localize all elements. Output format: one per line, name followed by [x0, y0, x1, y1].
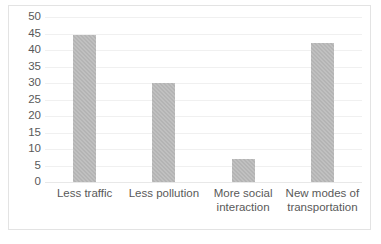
x-tick-label-line: Less traffic [57, 187, 112, 199]
x-axis: Less traffic Less pollution More social … [45, 186, 362, 215]
x-tick-label-line: interaction [205, 200, 282, 214]
x-tick-label-line: transportation [284, 200, 361, 214]
y-tick-label: 50 [11, 11, 41, 23]
y-tick-label: 20 [11, 110, 41, 122]
x-tick-label-line: New modes of [286, 187, 360, 199]
y-tick-label: 0 [11, 176, 41, 188]
bar-slot [124, 17, 203, 182]
x-tick-label-less-traffic: Less traffic [45, 186, 124, 215]
y-axis: 50 45 40 35 30 25 20 15 10 5 0 [9, 17, 41, 182]
axis-baseline [45, 182, 362, 183]
bar-series [45, 17, 362, 182]
y-tick-label: 35 [11, 61, 41, 73]
y-tick-label: 5 [11, 160, 41, 172]
y-tick-label: 10 [11, 143, 41, 155]
bar-chart: 50 45 40 35 30 25 20 15 10 5 0 [8, 5, 371, 230]
bar-new-modes-of-transportation[interactable] [311, 43, 334, 182]
y-tick-label: 45 [11, 28, 41, 40]
x-tick-label-line: More social [214, 187, 273, 199]
bar-slot [45, 17, 124, 182]
bar-slot [204, 17, 283, 182]
y-tick-label: 15 [11, 127, 41, 139]
y-tick-label: 25 [11, 94, 41, 106]
y-tick-label: 40 [11, 44, 41, 56]
x-tick-label-more-social-interaction: More social interaction [204, 186, 283, 215]
y-tick-label: 30 [11, 77, 41, 89]
bar-slot [283, 17, 362, 182]
bar-more-social-interaction[interactable] [232, 159, 255, 182]
x-tick-label-less-pollution: Less pollution [124, 186, 203, 215]
bar-less-traffic[interactable] [73, 35, 96, 182]
bar-less-pollution[interactable] [152, 83, 175, 182]
x-tick-label-new-modes-of-transportation: New modes of transportation [283, 186, 362, 215]
x-tick-label-line: Less pollution [129, 187, 199, 199]
